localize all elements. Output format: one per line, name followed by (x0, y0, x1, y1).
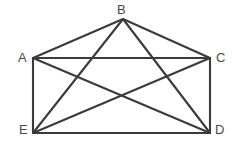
vertex-label-d: D (215, 123, 224, 136)
figure-svg (0, 0, 232, 150)
edge-ab (33, 19, 123, 58)
geometry-figure-canvas: BACED (0, 0, 232, 150)
vertex-label-b: B (117, 3, 126, 16)
edge-bc (123, 19, 210, 58)
vertex-label-e: E (19, 123, 28, 136)
vertex-label-c: C (216, 51, 225, 64)
vertex-label-a: A (18, 51, 27, 64)
